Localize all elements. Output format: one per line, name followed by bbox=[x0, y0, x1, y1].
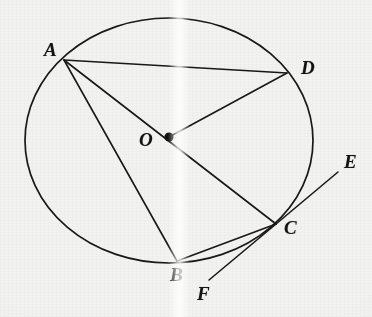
point-label-O: O bbox=[139, 130, 153, 149]
radius-o-d bbox=[169, 73, 287, 137]
chord-b-c bbox=[177, 224, 276, 261]
point-label-F: F bbox=[197, 284, 210, 303]
point-label-E: E bbox=[344, 152, 357, 171]
center-point-marker bbox=[164, 132, 173, 141]
point-label-C: C bbox=[284, 218, 297, 237]
chord-a-d bbox=[64, 60, 287, 73]
chord-a-b bbox=[64, 60, 177, 261]
point-label-D: D bbox=[301, 58, 315, 77]
point-label-A: A bbox=[44, 40, 57, 59]
diameter-a-o-c bbox=[64, 60, 276, 224]
point-label-B: B bbox=[170, 265, 183, 284]
geometry-figure: A D O C B E F bbox=[0, 0, 372, 317]
tangent-ray-c-f bbox=[209, 224, 276, 280]
